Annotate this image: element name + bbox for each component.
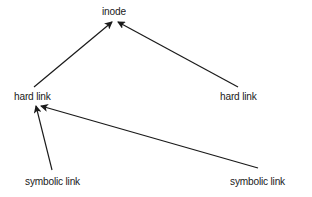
node-inode: inode [102, 5, 126, 17]
edge-hardlink-right-to-inode [118, 22, 238, 87]
edge-symlink-right-to-hardlink [41, 106, 258, 168]
edge-hardlink-left-to-inode [34, 22, 112, 87]
edge-symlink-left-to-hardlink [36, 106, 52, 170]
node-hard-link-right: hard link [220, 90, 257, 102]
node-hard-link-left: hard link [14, 90, 51, 102]
diagram-canvas: inode hard link hard link symbolic link … [0, 0, 312, 197]
node-symbolic-link-right: symbolic link [230, 175, 285, 187]
node-symbolic-link-left: symbolic link [25, 175, 80, 187]
